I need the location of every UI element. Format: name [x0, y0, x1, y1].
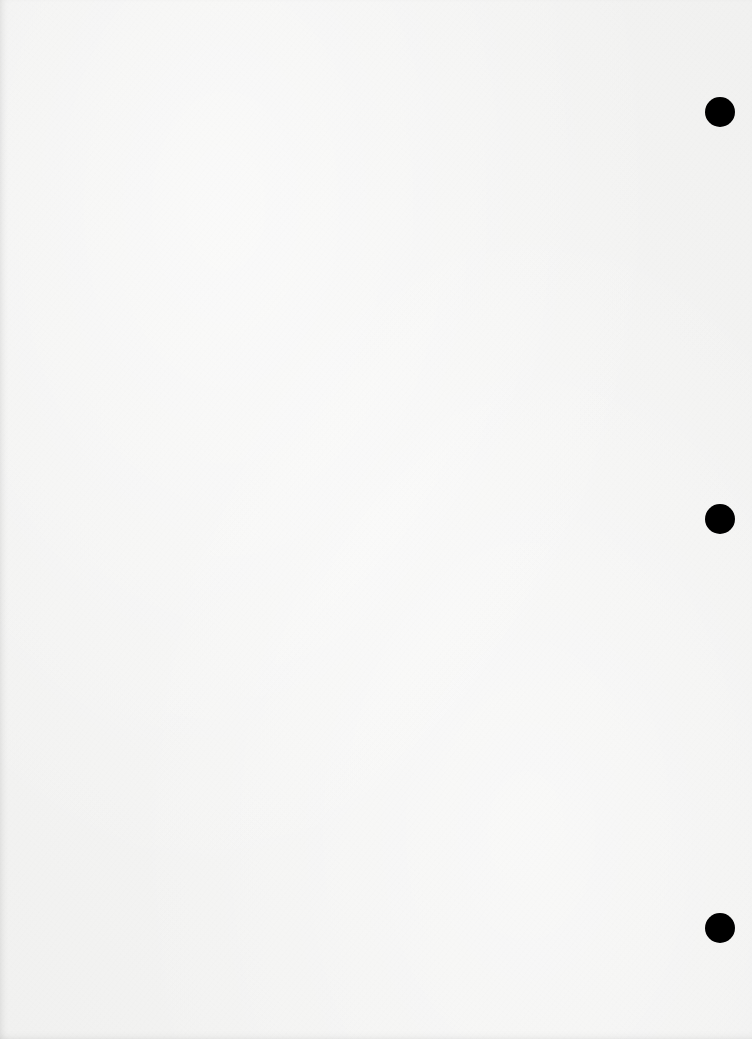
- paper-texture: [0, 0, 752, 1039]
- punch-hole-bottom: [705, 913, 735, 943]
- punch-hole-middle: [705, 504, 735, 534]
- paper-sheet: [0, 0, 752, 1039]
- punch-hole-top: [705, 97, 735, 127]
